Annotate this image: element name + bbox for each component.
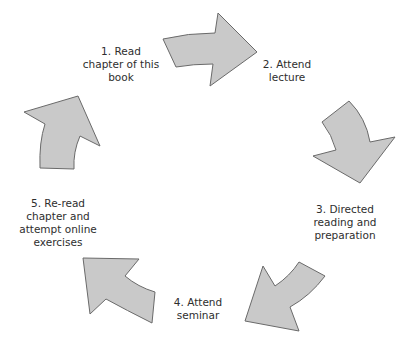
step-4-line-2: seminar [174,309,222,322]
step-2-line-2: lecture [263,71,311,84]
step-1-line-2: chapter of this [83,58,159,71]
step-5-line-4: exercises [19,236,97,249]
arrow-step5-to-step1-icon [24,96,100,169]
step-3-label: 3. Directed reading and preparation [314,203,377,242]
step-5-line-1: 5. Re-read [19,197,97,210]
step-1-line-3: book [83,71,159,84]
study-cycle-diagram: 1. Read chapter of this book 2. Attend l… [0,0,406,344]
step-3-line-3: preparation [314,229,377,242]
step-3-line-1: 3. Directed [314,203,377,216]
step-5-line-3: attempt online [19,223,97,236]
cycle-arrows [0,0,406,344]
step-1-line-1: 1. Read [83,45,159,58]
step-2-label: 2. Attend lecture [263,58,311,84]
arrow-step2-to-step3-icon [313,101,395,183]
step-4-line-1: 4. Attend [174,296,222,309]
step-3-line-2: reading and [314,216,377,229]
step-5-label: 5. Re-read chapter and attempt online ex… [19,197,97,249]
step-1-label: 1. Read chapter of this book [83,45,159,84]
step-5-line-2: chapter and [19,210,97,223]
arrow-step1-to-step2-icon [163,13,257,86]
arrow-step3-to-step4-icon [245,262,325,331]
step-4-label: 4. Attend seminar [174,296,222,322]
arrow-step4-to-step5-icon [83,258,155,323]
step-2-line-1: 2. Attend [263,58,311,71]
